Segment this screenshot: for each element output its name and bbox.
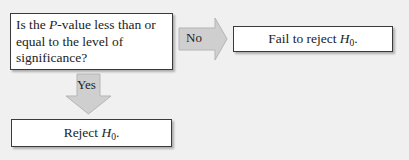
h-variable: H (101, 125, 111, 140)
reject-box: Reject H0. (11, 119, 172, 147)
h-variable: H (340, 31, 350, 46)
fail-period: . (354, 31, 357, 46)
reject-text: Reject (64, 125, 102, 140)
question-prefix: Is the (16, 17, 49, 32)
reject-period: . (116, 125, 119, 140)
fail-to-reject-box: Fail to reject H0. (233, 26, 393, 52)
reject-result-text: Reject H0. (64, 125, 120, 142)
fail-result-text: Fail to reject H0. (268, 31, 357, 48)
no-label: No (186, 31, 202, 45)
question-line-1: Is the P-value less than or (16, 17, 172, 34)
yes-label: Yes (77, 78, 96, 92)
question-line-3: significance? (16, 50, 172, 67)
question-line-2: equal to the level of (16, 34, 172, 51)
question-suffix: -value less than or (57, 17, 156, 32)
p-variable: P (49, 17, 57, 32)
decision-question-box: Is the P-value less than or equal to the… (10, 13, 173, 70)
fail-text: Fail to reject (268, 31, 340, 46)
